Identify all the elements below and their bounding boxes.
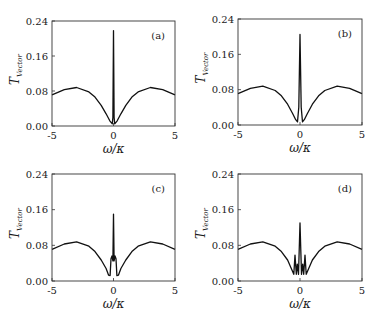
y-tick-label: 0.08 xyxy=(212,240,234,251)
x-tick-label: -5 xyxy=(47,130,57,141)
y-axis-label: TVector xyxy=(8,207,24,239)
x-axis-label: ω/κ xyxy=(103,142,125,156)
x-tick-label: -5 xyxy=(47,285,57,296)
y-tick-label: 0.00 xyxy=(26,121,48,132)
plot-b: 0.000.080.160.24-505(b)ω/κTVector xyxy=(194,14,365,156)
plot-d: 0.000.080.160.24-505(d)ω/κTVector xyxy=(194,169,365,312)
y-tick-label: 0.16 xyxy=(212,204,234,215)
panel-label: (d) xyxy=(338,183,352,194)
y-tick-label: 0.08 xyxy=(26,86,48,97)
x-tick-label: 5 xyxy=(359,285,365,296)
plot-a: 0.000.080.160.24-505(a)ω/κTVector xyxy=(8,16,178,157)
y-tick-label: 0.24 xyxy=(26,169,48,180)
figure-canvas: 0.000.080.160.24-505(a)ω/κTVector0.000.0… xyxy=(0,0,379,319)
x-tick-label: -5 xyxy=(233,285,243,296)
x-axis-label: ω/κ xyxy=(289,297,311,311)
panel-label: (a) xyxy=(151,30,165,41)
x-tick-label: 0 xyxy=(110,130,116,141)
x-tick-label: 0 xyxy=(110,285,116,296)
y-axis-label: TVector xyxy=(194,52,210,84)
plot-c: 0.000.080.160.24-505(c)ω/κTVector xyxy=(8,169,178,312)
transmission-curve xyxy=(238,35,362,122)
x-tick-label: 0 xyxy=(297,129,303,140)
y-tick-label: 0.08 xyxy=(26,240,48,251)
y-axis-label: TVector xyxy=(194,207,210,239)
panel-label: (b) xyxy=(338,28,352,39)
y-tick-label: 0.00 xyxy=(26,276,48,287)
x-tick-label: 5 xyxy=(172,285,178,296)
transmission-curve xyxy=(52,214,175,276)
y-tick-label: 0.00 xyxy=(212,120,234,131)
y-tick-label: 0.00 xyxy=(212,276,234,287)
x-axis-label: ω/κ xyxy=(289,141,311,155)
y-tick-label: 0.16 xyxy=(26,51,48,62)
transmission-curve xyxy=(238,223,362,274)
y-tick-label: 0.08 xyxy=(212,84,234,95)
y-tick-label: 0.16 xyxy=(26,204,48,215)
y-tick-label: 0.24 xyxy=(212,169,234,180)
panel-label: (c) xyxy=(152,183,166,194)
x-axis-label: ω/κ xyxy=(103,297,125,311)
y-tick-label: 0.16 xyxy=(212,49,234,60)
x-tick-label: -5 xyxy=(233,129,243,140)
transmission-curve xyxy=(52,31,175,124)
x-tick-label: 0 xyxy=(297,285,303,296)
x-tick-label: 5 xyxy=(359,129,365,140)
y-axis-label: TVector xyxy=(8,53,24,85)
x-tick-label: 5 xyxy=(172,130,178,141)
y-tick-label: 0.24 xyxy=(26,16,48,27)
y-tick-label: 0.24 xyxy=(212,14,234,25)
